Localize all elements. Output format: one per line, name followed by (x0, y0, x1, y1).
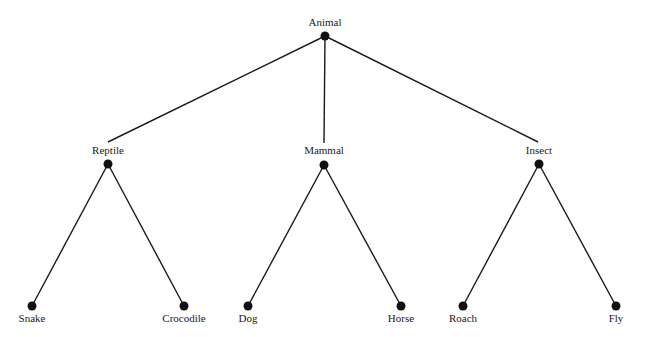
node-insect: Insect (526, 144, 552, 169)
taxonomy-tree-diagram: Animal Reptile Mammal Insect Snake Croco… (0, 0, 645, 337)
node-fly: Fly (609, 302, 624, 325)
node-crocodile: Crocodile (162, 302, 205, 325)
node-animal: Animal (309, 16, 342, 41)
edge-reptile-crocodile (108, 164, 184, 306)
node-label-fly: Fly (609, 312, 624, 324)
node-mammal: Mammal (304, 144, 344, 170)
node-label-crocodile: Crocodile (162, 312, 205, 324)
node-label-reptile: Reptile (92, 144, 124, 156)
node-label-snake: Snake (19, 312, 46, 324)
node-dot-icon (320, 161, 329, 170)
node-label-insect: Insect (526, 144, 552, 156)
node-label-mammal: Mammal (304, 144, 344, 156)
node-roach: Roach (449, 302, 478, 325)
edge-reptile-snake (32, 164, 108, 306)
node-dot-icon (459, 302, 468, 311)
edge-animal-insect (325, 36, 538, 142)
node-dot-icon (244, 302, 253, 311)
node-dot-icon (397, 302, 406, 311)
node-dog: Dog (239, 302, 258, 325)
edge-insect-roach (463, 164, 539, 306)
edge-insect-fly (539, 164, 616, 306)
edge-mammal-horse (324, 165, 401, 306)
node-label-dog: Dog (239, 312, 258, 324)
node-label-roach: Roach (449, 312, 478, 324)
node-dot-icon (535, 160, 544, 169)
node-dot-icon (180, 302, 189, 311)
node-dot-icon (612, 302, 621, 311)
node-label-horse: Horse (388, 312, 414, 324)
node-snake: Snake (19, 302, 46, 325)
node-dot-icon (28, 302, 37, 311)
node-dot-icon (321, 32, 330, 41)
node-label-animal: Animal (309, 16, 342, 28)
node-reptile: Reptile (92, 144, 124, 169)
node-horse: Horse (388, 302, 414, 325)
edge-mammal-dog (248, 165, 324, 306)
node-dot-icon (104, 160, 113, 169)
edge-animal-reptile (108, 36, 325, 142)
edge-animal-mammal (324, 36, 325, 143)
